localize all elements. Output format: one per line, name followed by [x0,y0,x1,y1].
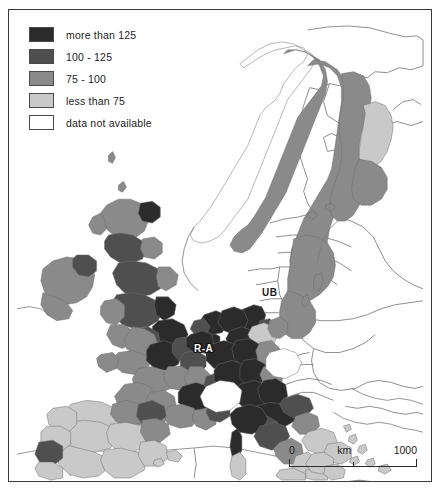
legend: more than 125 100 - 125 75 - 100 less th… [29,24,152,134]
scale-tick-mid [353,462,354,467]
legend-label: more than 125 [66,29,136,41]
legend-swatch-75-100 [29,71,54,86]
legend-label: 100 - 125 [66,51,112,63]
legend-item: more than 125 [29,24,152,45]
legend-swatch-100-125 [29,49,54,64]
map-label-ub: UB [262,287,277,298]
scale-bar: 0 km 1000 [289,444,417,468]
scale-unit-label: km [337,444,351,456]
scale-max-label: 1000 [394,444,417,456]
legend-label: 75 - 100 [66,73,106,85]
legend-label: data not available [66,117,152,129]
legend-item: data not available [29,112,152,133]
scale-bar-labels: 0 km 1000 [289,444,417,456]
legend-item: 75 - 100 [29,68,152,89]
legend-swatch-less-than-75 [29,93,54,108]
scale-bar-graphic [289,459,417,468]
legend-swatch-data-not-available [29,115,54,130]
scale-min-label: 0 [289,444,295,456]
legend-item: 100 - 125 [29,46,152,67]
map-label-ra: R-A [194,343,213,354]
scale-tick-end [416,459,417,467]
scale-tick-start [289,459,290,467]
legend-item: less than 75 [29,90,152,111]
legend-label: less than 75 [66,95,125,107]
map-figure: .c1{fill:#2b2b2b;} .c2{fill:#4f4f4f;} .c… [0,0,440,491]
map-frame: .c1{fill:#2b2b2b;} .c2{fill:#4f4f4f;} .c… [8,9,432,482]
legend-swatch-more-than-125 [29,27,54,42]
